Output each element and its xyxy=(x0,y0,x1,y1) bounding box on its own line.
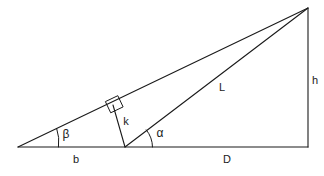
alpha-label: α xyxy=(157,126,164,140)
h-label: h xyxy=(312,74,318,86)
L-label: L xyxy=(219,81,225,93)
diagram-canvas: β α b D k L h xyxy=(0,0,324,176)
k-label: k xyxy=(123,115,129,127)
D-label: D xyxy=(223,153,231,165)
beta-label: β xyxy=(63,127,70,141)
geometry-diagram: β α b D k L h xyxy=(0,0,324,176)
alpha-angle-arc xyxy=(146,130,152,147)
slant-line xyxy=(125,8,308,147)
b-label: b xyxy=(73,153,79,165)
beta-angle-arc xyxy=(57,129,59,148)
